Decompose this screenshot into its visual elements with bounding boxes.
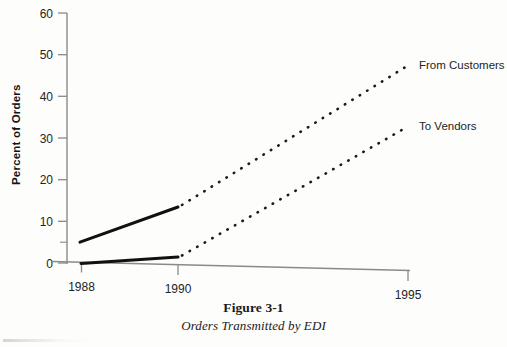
y-tick-label-40: 40 [40,90,54,104]
y-tick-label-30: 30 [40,132,54,146]
x-tick-label-1990: 1990 [165,282,192,296]
figure-page: 60 50 40 30 20 10 0 Percent of Orders 19… [0,0,507,347]
figure-caption-title: Figure 3-1 [0,300,507,316]
x-axis: 1988 1990 1995 [52,262,422,303]
y-axis: 60 50 40 30 20 10 0 Percent of Orders [10,7,67,271]
y-tick-label-20: 20 [40,173,54,187]
series-to-vendors: To Vendors [81,120,477,264]
y-tick-label-50: 50 [40,48,54,62]
to-vendors-projected-line [182,127,408,256]
edi-orders-line-chart: 60 50 40 30 20 10 0 Percent of Orders 19… [0,0,507,347]
y-tick-label-10: 10 [40,215,54,229]
x-tick-label-1988: 1988 [68,280,95,294]
y-tick-label-0: 0 [46,257,53,271]
from-customers-projected-line [182,66,408,206]
series-label-to-vendors: To Vendors [419,120,477,132]
to-vendors-actual-line [81,257,178,264]
y-axis-title: Percent of Orders [10,84,22,185]
from-customers-actual-line [80,207,178,242]
series-from-customers: From Customers [80,59,505,242]
series-label-from-customers: From Customers [419,59,505,71]
y-tick-label-60: 60 [40,7,54,21]
figure-caption-subtitle: Orders Transmitted by EDI [0,318,507,334]
